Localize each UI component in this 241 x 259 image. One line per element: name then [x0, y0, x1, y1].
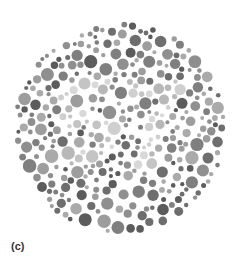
plate-dot	[51, 80, 60, 89]
plate-dot	[170, 129, 175, 134]
plate-dot	[142, 145, 146, 149]
plate-dot	[215, 163, 220, 168]
plate-dot	[165, 85, 172, 92]
plate-dot	[203, 135, 211, 143]
plate-dot	[63, 42, 70, 49]
plate-dot	[70, 203, 82, 215]
plate-dot	[139, 97, 151, 109]
plate-dot	[190, 138, 203, 151]
plate-dot	[174, 207, 183, 216]
plate-dot	[18, 93, 30, 105]
plate-dot	[103, 40, 111, 48]
plate-dot	[163, 136, 169, 142]
plate-dot	[39, 145, 45, 151]
plate-dot	[109, 167, 113, 171]
plate-dot	[76, 179, 85, 188]
plate-dot	[94, 73, 102, 81]
plate-dot	[68, 132, 73, 137]
plate-dot	[92, 193, 99, 200]
plate-dot	[73, 42, 77, 46]
plate-dot	[111, 49, 122, 60]
plate-dot	[45, 54, 49, 58]
plate-dot	[83, 174, 87, 178]
plate-dot	[129, 135, 134, 140]
plate-dot	[209, 172, 213, 176]
plate-dot	[135, 145, 140, 150]
plate-dot	[170, 135, 176, 141]
plate-dot	[16, 130, 20, 134]
plate-dot	[155, 36, 167, 48]
plate-dot	[178, 166, 183, 171]
plate-dot	[186, 176, 198, 188]
plate-dot	[152, 99, 158, 105]
plate-dot	[80, 149, 85, 154]
plate-dot	[137, 111, 145, 119]
plate-dot	[47, 189, 52, 194]
plate-dot	[149, 137, 154, 142]
plate-dot	[65, 92, 69, 96]
plate-dot	[99, 151, 103, 155]
plate-dot	[85, 120, 89, 124]
plate-dot	[172, 94, 177, 99]
plate-dot	[184, 203, 188, 207]
plate-dot	[193, 82, 203, 92]
plate-dot	[61, 175, 67, 181]
plate-dot	[94, 178, 99, 183]
plate-dot	[173, 79, 177, 83]
plate-dot	[118, 161, 123, 166]
plate-dot	[121, 109, 125, 113]
plate-dot	[48, 121, 54, 127]
plate-dot	[67, 124, 71, 128]
plate-dot	[138, 29, 143, 34]
plate-dot	[90, 107, 94, 111]
plate-dot	[84, 164, 88, 168]
plate-dot	[47, 92, 51, 96]
plate-dot	[86, 150, 99, 163]
plate-dot	[47, 114, 51, 118]
plate-dot	[58, 94, 64, 100]
plate-dot	[190, 101, 200, 111]
plate-dot	[144, 31, 149, 36]
plate-dot	[28, 130, 33, 135]
plate-dot	[183, 129, 191, 137]
plate-dot	[167, 189, 172, 194]
plate-dot	[115, 171, 120, 176]
plate-dot	[65, 55, 70, 60]
plate-dot	[37, 182, 47, 192]
plate-dot	[15, 104, 20, 109]
plate-dot	[99, 96, 105, 102]
plate-dot	[54, 208, 60, 214]
plate-dot	[165, 120, 169, 124]
plate-dot	[105, 79, 111, 85]
plate-dot	[174, 108, 178, 112]
plate-dot	[63, 167, 68, 172]
plate-dot	[175, 196, 182, 203]
plate-dot	[51, 144, 55, 148]
plate-dot	[105, 159, 110, 164]
plate-dot	[93, 35, 97, 39]
plate-dot	[134, 105, 139, 110]
plate-dot	[160, 113, 164, 117]
plate-dot	[106, 229, 110, 233]
plate-dot	[79, 77, 91, 89]
plate-dot	[45, 149, 59, 163]
plate-dot	[152, 50, 156, 54]
plate-dot	[205, 98, 213, 106]
plate-dot	[165, 73, 172, 80]
plate-dot	[89, 141, 95, 147]
plate-dot	[93, 187, 99, 193]
plate-dot	[30, 86, 36, 92]
plate-dot	[166, 105, 171, 110]
plate-dot	[180, 192, 185, 197]
plate-dot	[114, 39, 121, 46]
plate-dot	[84, 55, 97, 68]
plate-dot	[171, 161, 175, 165]
plate-dot	[105, 136, 111, 142]
plate-dot	[100, 63, 113, 76]
plate-dot	[139, 91, 145, 97]
plate-dot	[92, 120, 101, 129]
plate-dot	[96, 209, 101, 214]
plate-dot	[20, 123, 28, 131]
plate-dot	[157, 166, 168, 177]
plate-dot	[33, 75, 41, 83]
